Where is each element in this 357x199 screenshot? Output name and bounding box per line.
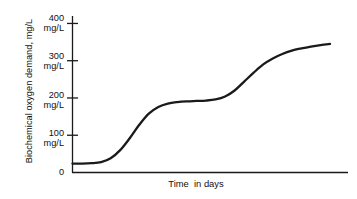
plot-area <box>0 0 357 199</box>
axes-group <box>72 16 348 173</box>
series-line-biochemical-oxygen-demand <box>73 44 331 164</box>
chart-container: Biochemical oxygen demand, mg/L 400 mg/L… <box>0 0 357 199</box>
